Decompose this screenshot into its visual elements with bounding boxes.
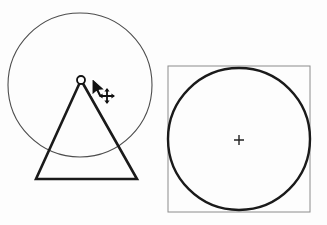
apex-vertex-handle[interactable] [77,76,85,84]
figure-svg[interactable]: Shape manipulation canvas [0,0,327,225]
drawing-canvas[interactable]: Two line drawings: a thin circle with a … [0,0,327,225]
canvas-background [0,0,327,225]
